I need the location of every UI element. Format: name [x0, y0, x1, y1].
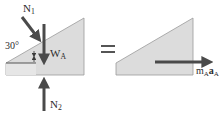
label-wa: WA: [50, 48, 66, 61]
label-ma-aa: mAaA: [196, 66, 219, 78]
label-n1-sub: 1: [31, 7, 35, 16]
force-n1-arrow-icon: [22, 17, 38, 38]
label-m: m: [196, 65, 204, 76]
right-wedge-body: [116, 18, 193, 75]
label-wa-sub: A: [60, 52, 66, 61]
diagram-svg: [0, 0, 219, 120]
label-n1: N1: [23, 3, 35, 16]
diagram-stage: N1 30° WA N2 mAaA: [0, 0, 219, 120]
label-n2: N2: [50, 99, 62, 112]
label-wa-main: W: [50, 47, 60, 59]
label-a-sub: A: [214, 70, 219, 78]
label-n1-main: N: [23, 2, 31, 14]
label-angle: 30°: [5, 41, 19, 51]
equals-sign-icon: [101, 46, 115, 52]
label-n2-sub: 2: [58, 103, 62, 112]
left-wedge-strip: [6, 63, 36, 75]
label-n2-main: N: [50, 98, 58, 110]
